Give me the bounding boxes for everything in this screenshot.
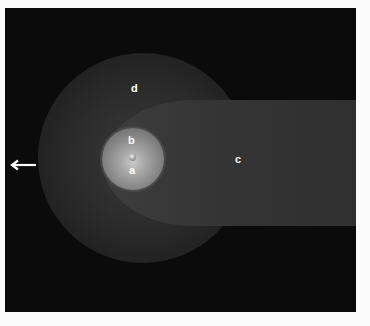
- label-d: d: [131, 83, 138, 94]
- label-b: b: [128, 135, 135, 146]
- comet-diagram-panel: d b a c: [5, 8, 356, 312]
- arrow-left-icon: [9, 159, 37, 171]
- label-c: c: [235, 154, 241, 165]
- nucleus: [129, 153, 136, 161]
- label-a: a: [129, 165, 135, 176]
